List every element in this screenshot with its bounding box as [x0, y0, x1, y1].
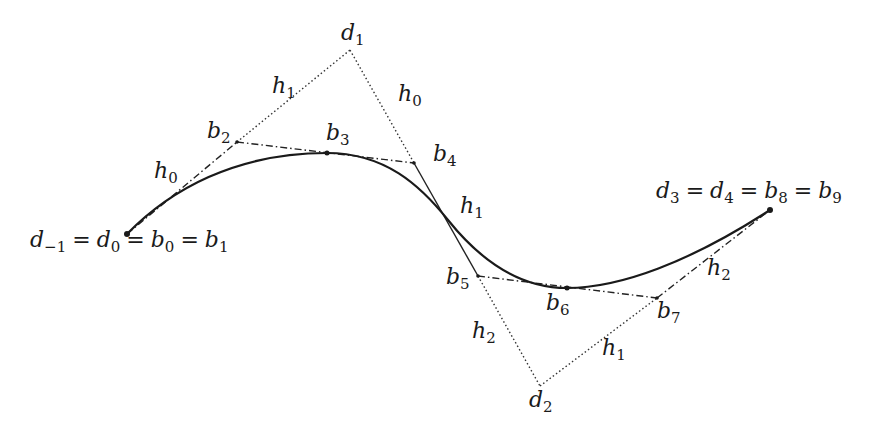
- term-base: d: [710, 178, 724, 203]
- term-sub: 4: [724, 189, 734, 207]
- term-base: b: [151, 227, 165, 252]
- label-base: h: [398, 81, 412, 106]
- label-base: h: [272, 73, 286, 98]
- edge-b7-d3: [657, 210, 770, 298]
- label-base: b: [657, 298, 671, 323]
- label-sub: 6: [560, 301, 570, 319]
- label-sub: 5: [460, 275, 470, 293]
- term-base: d: [30, 227, 44, 252]
- label-base: h: [472, 318, 486, 343]
- label-base: b: [546, 290, 560, 315]
- point-b5: [476, 274, 480, 278]
- label-sub: 0: [168, 169, 178, 187]
- label-sub: 2: [486, 329, 496, 347]
- label-sub: 2: [543, 398, 553, 416]
- equals-sign: =: [174, 227, 204, 252]
- label-sub: 2: [221, 129, 231, 147]
- label-sub: 7: [671, 309, 681, 327]
- label-base: h: [602, 335, 616, 360]
- label-h0-left: h0: [154, 160, 178, 186]
- label-h0-upper-right: h0: [398, 83, 422, 109]
- label-d2: d2: [529, 389, 553, 415]
- label-base: b: [326, 120, 340, 145]
- label-sub: 1: [616, 346, 626, 364]
- label-b3: b3: [326, 122, 350, 148]
- label-sub: 1: [355, 31, 365, 49]
- label-sub: 2: [721, 266, 731, 284]
- term-sub: −1: [44, 238, 66, 256]
- label-h1-mid: h1: [460, 195, 484, 221]
- point-b2: [235, 140, 239, 144]
- label-base: b: [433, 141, 447, 166]
- label-sub: 3: [340, 131, 350, 149]
- term-sub: 1: [219, 238, 229, 256]
- point-b3: [325, 151, 330, 156]
- point-b4: [412, 161, 416, 165]
- label-h1-upper: h1: [272, 75, 296, 101]
- equals-sign: =: [680, 178, 710, 203]
- term-sub: 8: [778, 189, 788, 207]
- start-equation: d−1=d0=b0=b1: [30, 229, 228, 255]
- equals-sign: =: [66, 227, 96, 252]
- term-sub: 9: [832, 189, 842, 207]
- label-h1-lower: h1: [602, 337, 626, 363]
- term-base: b: [764, 178, 778, 203]
- label-sub: 1: [286, 84, 296, 102]
- label-base: h: [707, 255, 721, 280]
- term-sub: 0: [165, 238, 175, 256]
- label-d1: d1: [341, 22, 365, 48]
- point-b6: [565, 286, 570, 291]
- label-b6: b6: [546, 292, 570, 318]
- label-b7: b7: [657, 300, 681, 326]
- label-b4: b4: [433, 143, 457, 169]
- term-sub: 0: [111, 238, 121, 256]
- equals-sign: =: [734, 178, 764, 203]
- label-sub: 1: [474, 204, 484, 222]
- term-base: b: [818, 178, 832, 203]
- edge-d0-b2: [127, 142, 237, 234]
- label-h2-lower-left: h2: [472, 320, 496, 346]
- equals-sign: =: [788, 178, 818, 203]
- diagram-canvas: [0, 0, 890, 436]
- equals-sign: =: [120, 227, 150, 252]
- label-base: d: [341, 20, 355, 45]
- end-equation: d3=d4=b8=b9: [656, 180, 842, 206]
- label-base: h: [460, 193, 474, 218]
- label-b2: b2: [207, 120, 231, 146]
- label-base: b: [207, 118, 221, 143]
- label-base: d: [529, 387, 543, 412]
- term-sub: 3: [670, 189, 680, 207]
- label-b5: b5: [446, 266, 470, 292]
- label-base: h: [154, 158, 168, 183]
- term-base: d: [656, 178, 670, 203]
- label-sub: 4: [447, 152, 457, 170]
- label-sub: 0: [412, 92, 422, 110]
- point-d3: [767, 207, 773, 213]
- label-h2-right: h2: [707, 257, 731, 283]
- term-base: b: [205, 227, 219, 252]
- label-base: b: [446, 264, 460, 289]
- term-base: d: [97, 227, 111, 252]
- spline-diagram: d1 h1 h0 b2 b3 b4 h0 h1 b5 b6 b7 h2 h2 h…: [0, 0, 890, 436]
